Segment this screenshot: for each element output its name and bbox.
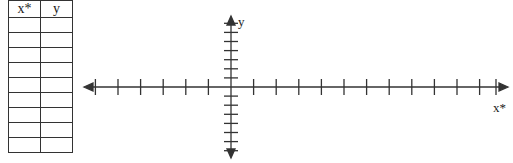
coordinate-plane	[0, 0, 513, 163]
x-axis-label: x*	[493, 100, 506, 116]
x-axis-right-arrow-icon	[499, 83, 508, 91]
x-axis-left-arrow-icon	[84, 83, 93, 91]
y-axis-label: y	[238, 14, 245, 30]
